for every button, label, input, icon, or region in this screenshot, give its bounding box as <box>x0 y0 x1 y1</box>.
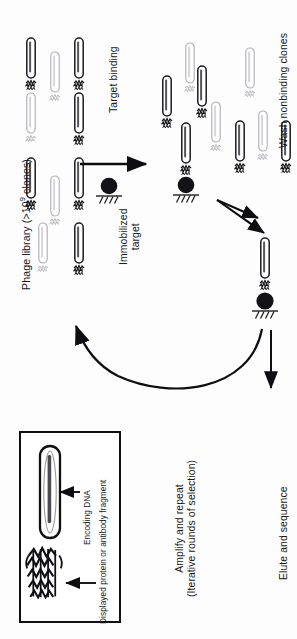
bound-phage-complex <box>173 123 199 203</box>
label-phage-library-exponent: 9 <box>18 197 27 201</box>
phage-particle <box>235 121 246 173</box>
label-elute-and-sequence: Elute and sequence <box>278 486 290 580</box>
label-phage-library-suffix: clones) <box>20 159 32 197</box>
immobilized-target-icon <box>96 178 122 204</box>
phage-particle <box>211 102 222 151</box>
label-immobilized-target: Immobilized target <box>118 208 143 265</box>
target-binding-cluster <box>162 43 222 203</box>
phage-particle <box>162 76 173 128</box>
label-displayed-protein: Displayed protein or antibody fragment <box>99 480 109 624</box>
phage-particle <box>74 38 85 90</box>
label-immobilized-line2: target <box>130 208 142 265</box>
phage-particle <box>185 43 196 92</box>
phage-particle <box>38 223 49 272</box>
label-amplify-line2: (Iterative rounds of selection) <box>186 460 198 597</box>
phage-particle <box>258 111 269 160</box>
phage-particle <box>74 223 85 275</box>
phage-particle <box>26 38 37 90</box>
phage-particle <box>74 158 85 210</box>
phage-particle <box>50 52 61 101</box>
label-encoding-dna: Encoding DNA <box>83 490 93 545</box>
phage-library-cluster <box>26 38 85 275</box>
figure-canvas <box>0 0 297 639</box>
label-phage-library: Phage library (>109 clones) <box>20 159 33 290</box>
phage-particle <box>50 176 61 225</box>
phage-particle <box>245 48 256 97</box>
label-phage-library-prefix: Phage library (>10 <box>20 201 32 290</box>
phage-display-figure: Phage library (>109 clones) Target bindi… <box>0 0 297 639</box>
label-wash-nonbinding-clones: Wash nonbinding clones <box>278 33 290 148</box>
label-amplify-line1: Amplify and repeat <box>174 460 186 597</box>
amplify-curved-arrow <box>76 326 262 388</box>
label-immobilized-line1: Immobilized <box>118 208 130 265</box>
phage-particle <box>74 93 85 145</box>
label-amplify-and-repeat: Amplify and repeat (Iterative rounds of … <box>174 460 199 597</box>
selected-bound-phage <box>252 238 278 319</box>
label-target-binding: Target binding <box>108 46 120 113</box>
inset-phage-capsule <box>40 446 60 538</box>
phage-particle <box>197 66 208 118</box>
phage-particle <box>26 93 37 142</box>
